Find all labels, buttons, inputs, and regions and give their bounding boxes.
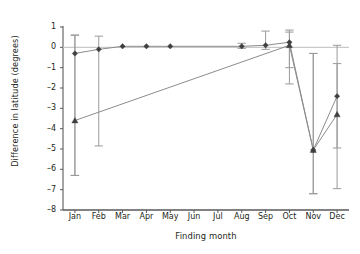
datapoint-series-diamond-apr[interactable] — [144, 44, 149, 49]
chart-canvas — [0, 0, 360, 254]
datapoint-series-diamond-dec[interactable] — [334, 93, 339, 98]
datapoint-series-triangle-dec[interactable] — [334, 111, 340, 117]
datapoint-series-diamond-jan[interactable] — [72, 51, 77, 56]
line-series-diamond — [75, 42, 337, 150]
line-series-triangle — [75, 45, 337, 150]
chart-figure: Difference in latitude (degrees) Finding… — [0, 0, 360, 254]
datapoint-series-diamond-may[interactable] — [168, 44, 173, 49]
datapoint-series-diamond-mar[interactable] — [120, 44, 125, 49]
